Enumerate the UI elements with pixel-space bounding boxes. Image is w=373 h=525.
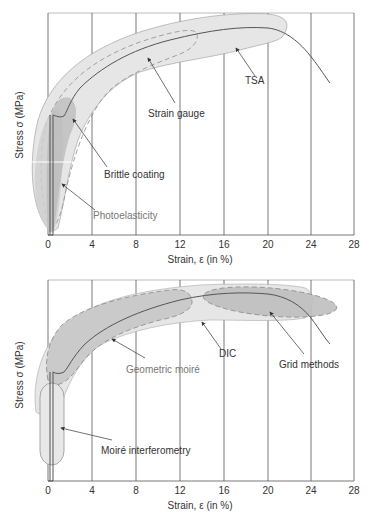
label-geometric-moire: Geometric moiré	[126, 364, 200, 375]
svg-text:20: 20	[262, 485, 274, 496]
svg-text:4: 4	[89, 485, 95, 496]
label-photoelasticity: Photoelasticity	[93, 210, 157, 221]
label-tsa: TSA	[245, 75, 265, 86]
label-strain-gauge: Strain gauge	[148, 108, 205, 119]
top-y-axis-label: Stress σ (MPa)	[14, 91, 25, 158]
svg-text:12: 12	[174, 239, 186, 250]
svg-text:0: 0	[45, 485, 51, 496]
svg-text:24: 24	[305, 239, 317, 250]
top-x-axis-label: Strain, ε (in %)	[167, 254, 232, 265]
label-moire-interferometry: Moiré interferometry	[101, 445, 190, 456]
svg-text:16: 16	[218, 239, 230, 250]
bottom-x-ticks: 0 4 8 12 16 20 24 28	[45, 485, 360, 496]
svg-text:8: 8	[133, 485, 139, 496]
moire-interferometry-region	[40, 383, 64, 465]
label-dic: DIC	[219, 348, 236, 359]
svg-text:16: 16	[218, 485, 230, 496]
top-chart: TSA Strain gauge Brittle coating Photoel…	[14, 13, 360, 265]
label-brittle-coating: Brittle coating	[104, 169, 165, 180]
bottom-y-axis-label: Stress σ (MPa)	[14, 341, 25, 408]
label-grid-methods: Grid methods	[279, 359, 339, 370]
svg-text:4: 4	[89, 239, 95, 250]
svg-text:28: 28	[348, 239, 360, 250]
svg-text:24: 24	[305, 485, 317, 496]
figure: TSA Strain gauge Brittle coating Photoel…	[0, 0, 373, 525]
svg-text:0: 0	[45, 239, 51, 250]
bottom-x-axis-label: Strain, ε (in %)	[167, 500, 232, 511]
bottom-chart: DIC Geometric moiré Grid methods Moiré i…	[14, 280, 360, 511]
svg-text:12: 12	[174, 485, 186, 496]
svg-text:28: 28	[348, 485, 360, 496]
svg-text:8: 8	[133, 239, 139, 250]
top-x-ticks: 0 4 8 12 16 20 24 28	[45, 239, 360, 250]
svg-text:20: 20	[262, 239, 274, 250]
